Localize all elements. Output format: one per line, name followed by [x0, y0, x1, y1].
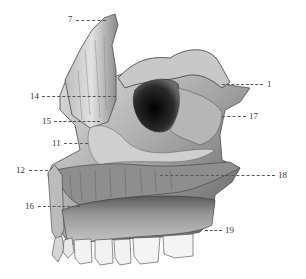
molar-tooth-1: [95, 239, 113, 265]
label-19: 19: [225, 226, 234, 235]
label-15: 15: [42, 117, 51, 126]
label-17: 17: [249, 112, 258, 121]
label-14: 14: [30, 92, 39, 101]
leader-line-17: [222, 116, 246, 117]
label-16: 16: [25, 202, 34, 211]
leader-line-15: [54, 121, 100, 122]
premolar-tooth-2: [74, 239, 92, 264]
label-11: 11: [52, 139, 61, 148]
label-7: 7: [68, 15, 73, 24]
label-12: 12: [16, 166, 25, 175]
molar-tooth-2: [114, 239, 131, 265]
premolar-tooth-1: [63, 238, 74, 258]
leader-line-18: [160, 175, 275, 176]
molar-tooth-3: [133, 237, 160, 264]
leader-line-7: [76, 20, 106, 21]
anterior-nasal-spine: [48, 165, 64, 242]
leader-line-16: [38, 206, 80, 207]
label-1: 1: [267, 80, 272, 89]
maxilla-illustration: [0, 0, 306, 279]
molar-tooth-4: [163, 234, 193, 258]
leader-line-19: [205, 230, 222, 231]
leader-line-12: [29, 170, 48, 171]
leader-line-14: [42, 96, 116, 97]
leader-line-1: [222, 84, 263, 85]
frontal-process: [65, 14, 118, 128]
leader-line-11: [64, 143, 88, 144]
canine-tooth: [52, 236, 64, 262]
label-18: 18: [278, 171, 287, 180]
